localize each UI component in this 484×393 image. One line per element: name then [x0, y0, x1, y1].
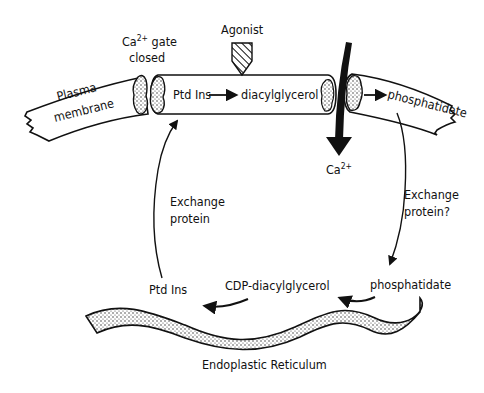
ca-gate-left-half: [133, 76, 147, 115]
endoplasmic-reticulum-label: Endoplastic Reticulum: [202, 357, 327, 372]
phosphatidate-to-cdp-arrow: [340, 297, 375, 301]
pi-cycle-diagram: Agonist Ca2+ gate closed Plasma membrane…: [0, 0, 484, 393]
ptd-ins-membrane-label: Ptd Ins: [173, 87, 211, 102]
endoplasmic-reticulum-band: [86, 298, 422, 350]
cdp-to-ptdins-arrow: [205, 299, 248, 307]
diagram-canvas: Agonist Ca2+ gate closed Plasma membrane…: [0, 0, 484, 393]
phosphatidate-er-label: phosphatidate: [370, 277, 451, 292]
ca-channel-left-wall: [321, 80, 334, 111]
exchange-protein-left-label-line1: Exchange: [170, 194, 225, 209]
exchange-protein-right-label-line2: protein?: [404, 204, 450, 219]
diacylglycerol-label: diacylglycerol: [241, 87, 319, 102]
ca-influx-label: Ca2+: [326, 161, 352, 177]
agonist-label: Agonist: [221, 22, 264, 37]
ca-gate-label: Ca2+ gate: [122, 33, 177, 49]
ca-gate-closed-label: closed: [129, 50, 165, 65]
agonist-receptor-icon: [232, 43, 252, 75]
exchange-protein-right-label-line1: Exchange: [404, 187, 459, 202]
exchange-protein-left-label-line2: protein: [170, 211, 210, 226]
cdp-diacylglycerol-label: CDP-diacylglycerol: [225, 278, 330, 293]
ptd-ins-er-label: Ptd Ins: [149, 282, 187, 297]
ca-gate-right-half: [150, 77, 164, 114]
